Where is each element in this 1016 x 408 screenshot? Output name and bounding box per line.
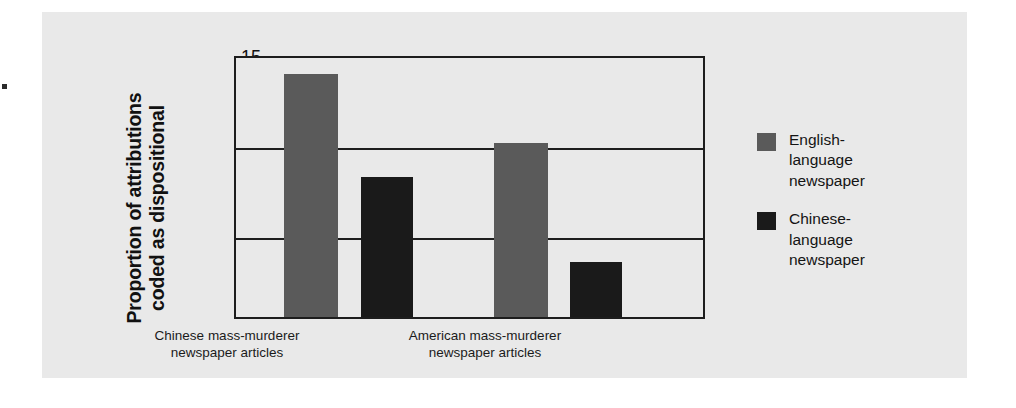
figure-canvas: Proportion of attributions coded as disp… [0, 0, 1016, 408]
x-axis-label-group-0-line2: newspaper articles [107, 345, 347, 362]
x-axis-label-group-0: Chinese mass-murderer newspaper articles [107, 328, 347, 362]
legend: English- language newspaper Chinese- lan… [757, 130, 957, 289]
plot-area [234, 56, 705, 319]
x-axis-label-group-1: American mass-murderer newspaper article… [360, 328, 610, 362]
chart-panel: Proportion of attributions coded as disp… [42, 12, 967, 378]
legend-label-english-language-newspaper: English- language newspaper [789, 130, 865, 191]
legend-item-chinese-language-newspaper: Chinese- language newspaper [757, 209, 957, 270]
legend-label-line2: language [789, 150, 865, 170]
legend-label-line1: English- [789, 130, 865, 150]
page-edge-mark [2, 84, 7, 89]
legend-label-line3: newspaper [789, 250, 865, 270]
legend-label-chinese-language-newspaper: Chinese- language newspaper [789, 209, 865, 270]
legend-swatch-english-language-newspaper [757, 133, 776, 151]
bar-chinese-american-articles [570, 262, 622, 317]
legend-item-english-language-newspaper: English- language newspaper [757, 130, 957, 191]
x-axis-label-group-1-line1: American mass-murderer [360, 328, 610, 345]
y-axis-title-line2: coded as dispositional [147, 105, 169, 311]
x-axis-label-group-1-line2: newspaper articles [360, 345, 610, 362]
legend-swatch-chinese-language-newspaper [757, 212, 776, 230]
legend-label-line1: Chinese- [789, 209, 865, 229]
bar-chinese-chinese-articles [361, 177, 413, 317]
y-axis-title-line1: Proportion of attributions [124, 93, 146, 324]
bar-english-chinese-articles [284, 74, 338, 317]
legend-label-line3: newspaper [789, 171, 865, 191]
legend-label-line2: language [789, 230, 865, 250]
bar-english-american-articles [494, 143, 548, 317]
y-axis-title: Proportion of attributions coded as disp… [118, 58, 174, 358]
x-axis-label-group-0-line1: Chinese mass-murderer [107, 328, 347, 345]
